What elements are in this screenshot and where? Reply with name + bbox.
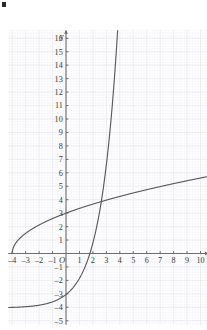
- y-tick-label: 6: [59, 169, 63, 178]
- x-tick-label: –3: [21, 256, 30, 265]
- y-tick-label: –4: [54, 303, 63, 312]
- x-tick-label: 5: [131, 256, 135, 265]
- y-tick-label: 10: [55, 115, 63, 124]
- major-grid: [8, 30, 207, 325]
- y-tick-label: 14: [55, 61, 63, 70]
- y-tick-label: –5: [54, 317, 63, 326]
- y-tick-label: 12: [55, 88, 63, 97]
- coordinate-plane: –4–3–2–112345678910–5–4–3–2–112345678910…: [0, 0, 207, 330]
- axis-tick-labels: –4–3–2–112345678910–5–4–3–2–112345678910…: [7, 31, 204, 325]
- y-tick-label: 1: [59, 236, 63, 245]
- y-tick-label: 4: [59, 196, 63, 205]
- y-axis-label: y: [59, 31, 64, 41]
- y-tick-label: 15: [55, 48, 63, 57]
- y-tick-label: 13: [55, 75, 63, 84]
- y-tick-label: 2: [59, 223, 63, 232]
- x-tick-label: –4: [7, 256, 16, 265]
- x-tick-label: 3: [104, 256, 108, 265]
- curve-square-root: [12, 176, 207, 253]
- graph-figure: –4–3–2–112345678910–5–4–3–2–112345678910…: [0, 0, 207, 330]
- x-tick-label: 2: [91, 256, 95, 265]
- x-tick-label: 8: [172, 256, 176, 265]
- x-tick-label: 10: [196, 256, 204, 265]
- y-tick-label: 11: [55, 101, 63, 110]
- y-tick-label: 8: [59, 142, 63, 151]
- x-tick-label: 6: [145, 256, 149, 265]
- y-tick-label: –2: [54, 276, 63, 285]
- x-tick-label: –2: [34, 256, 43, 265]
- y-tick-label: 5: [59, 182, 63, 191]
- x-tick-label: 7: [158, 256, 162, 265]
- x-tick-label: 9: [185, 256, 189, 265]
- y-tick-label: 3: [59, 209, 63, 218]
- x-tick-label: 4: [118, 256, 122, 265]
- y-tick-label: 7: [59, 155, 63, 164]
- origin-label: O: [59, 255, 65, 265]
- y-tick-label: 9: [59, 128, 63, 137]
- y-tick-label: –3: [54, 290, 63, 299]
- x-tick-label: 1: [77, 256, 81, 265]
